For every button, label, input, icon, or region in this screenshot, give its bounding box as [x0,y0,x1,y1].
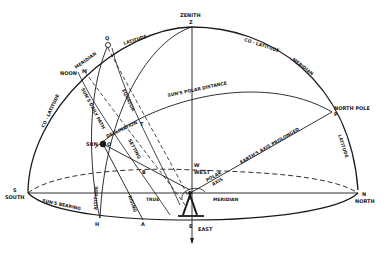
setting-label: SETTING [127,138,142,160]
sun-label: SUN [86,141,98,147]
q-letter: Q [105,35,109,41]
meridian-left-label: MERIDIAN [74,51,98,70]
latitude-top-label: LATITUDE [123,34,148,46]
co-latitude-left-label: CO - LATITUDE [40,93,60,128]
meridian-bottom-label: MERIDIAN [213,197,239,202]
south-letter: S [13,187,17,193]
equator-label: EQUATOR [121,88,136,112]
outer-meridian-arc [28,27,358,193]
altitude-label: ALTITUDE [93,186,99,210]
north-letter: N [362,191,366,197]
diagram-canvas: ZENITH Z NORTH POLE P N NORTH S SOUTH EA… [0,0,385,259]
h-letter: H [95,221,99,227]
earths-axis-label: EARTH'S AXIS PROLONGED [239,127,300,165]
zenith-letter: Z [189,19,193,25]
north-pole-label: NORTH POLE [334,105,370,111]
rising-label: RISING [127,195,138,213]
true-label: TRUE [146,197,159,202]
west-label: WEST [194,169,211,175]
noon-label: NOON [60,70,77,76]
arrow-down-icon [190,238,194,244]
south-label: SOUTH [5,194,25,200]
north-pole-letter: P [334,111,338,117]
sun-observer-line [103,144,190,190]
t-letter: T [140,121,144,127]
west-letter: W [194,162,200,168]
polar-distance-label: SUN'S POLAR DISTANCE [167,81,227,98]
north-label: NORTH [355,198,375,204]
a-letter: A [141,221,145,227]
zenith-label: ZENITH [180,12,201,18]
b-letter: B [142,169,146,175]
co-latitude-right-label: CO - LATITUDE [244,37,280,53]
noon-letter: M [82,68,87,74]
meridian-right-label: MERIDIAN [291,57,314,77]
celestial-sphere-diagram: ZENITH Z NORTH POLE P N NORTH S SOUTH EA… [0,0,385,259]
east-letter: E [189,223,193,229]
sun-letter: O [107,141,111,147]
east-label: EAST [198,226,213,232]
q-point [106,43,111,48]
sun-point [100,141,106,147]
daily-path-label: SUN'S DAILY PATH [80,87,106,130]
horizon-back-dashed [28,169,358,193]
observer-instrument-icon [178,188,205,216]
